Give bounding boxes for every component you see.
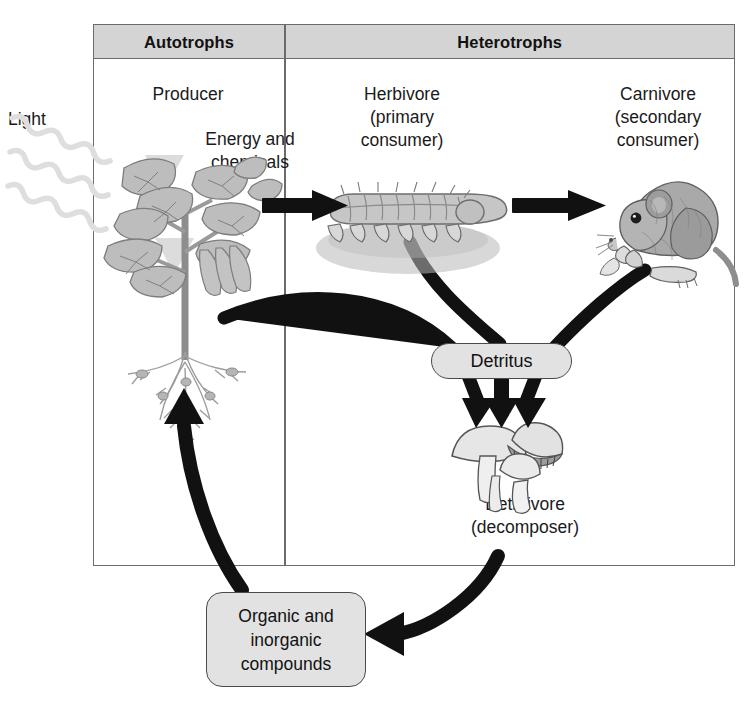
arrow-detritivore-to-compounds <box>364 556 498 656</box>
diagram-canvas: Autotrophs Heterotrophs <box>0 0 756 723</box>
arrow-caterpillar-to-mouse <box>512 190 606 221</box>
arrow-compounds-to-plant <box>164 388 242 590</box>
arrow-plant-to-caterpillar <box>262 190 348 221</box>
compounds-box: Organic and inorganic compounds <box>206 592 366 687</box>
arrow-detritus-to-detritivore-center <box>484 378 519 428</box>
arrow-detritus-to-detritivore-right <box>512 378 546 428</box>
detritus-box: Detritus <box>431 343 572 379</box>
flow-arrows-layer <box>0 0 756 723</box>
